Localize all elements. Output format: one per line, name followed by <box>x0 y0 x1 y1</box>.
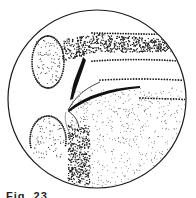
figure-caption: Fig. 23. <box>6 190 52 198</box>
dark-fiber <box>70 57 86 100</box>
stipple-dots <box>29 32 190 190</box>
stippled-histology-drawing <box>0 0 196 198</box>
